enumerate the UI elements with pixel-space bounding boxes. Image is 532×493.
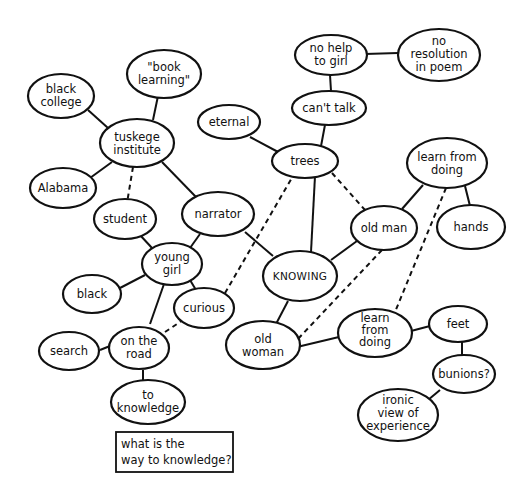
- svg-text:student: student: [103, 212, 147, 226]
- node-tuskege-institute: tuskege institute: [100, 119, 174, 167]
- node-no-help-to-girl: no help to girl: [295, 35, 367, 75]
- svg-text:learning": learning": [138, 73, 190, 87]
- svg-text:learn from: learn from: [417, 150, 477, 164]
- svg-text:curious: curious: [183, 301, 225, 315]
- svg-text:black: black: [46, 82, 77, 96]
- node-search: search: [39, 332, 99, 370]
- edge-young-girl-black: [120, 275, 145, 288]
- svg-text:road: road: [126, 347, 152, 361]
- svg-text:institute: institute: [113, 143, 161, 157]
- node-hands: hands: [437, 205, 505, 249]
- edge-trees-cant-talk: [321, 125, 325, 146]
- node-feet: feet: [429, 306, 487, 342]
- svg-text:woman: woman: [242, 345, 284, 359]
- svg-text:Alabama: Alabama: [38, 181, 89, 195]
- edge-narrator-young-girl: [190, 234, 200, 248]
- concept-map: "book learning" black college tuskege in…: [0, 0, 532, 493]
- svg-text:college: college: [40, 95, 81, 109]
- svg-text:no help: no help: [310, 41, 353, 55]
- svg-text:resolution: resolution: [410, 47, 467, 61]
- node-book-learning: "book learning": [127, 50, 201, 98]
- svg-text:what is the: what is the: [121, 437, 185, 451]
- edge-tuskege-book-learning: [153, 96, 158, 120]
- svg-text:hands: hands: [454, 220, 489, 234]
- svg-text:view of: view of: [377, 406, 419, 420]
- node-old-woman: old woman: [226, 321, 300, 369]
- question-box: what is the way to knowledge?: [116, 432, 233, 472]
- svg-text:girl: girl: [163, 263, 181, 277]
- node-student: student: [94, 199, 156, 239]
- edge-old-woman-learn-bottom: [297, 337, 339, 347]
- edge-on-the-road-curious: [165, 320, 183, 332]
- svg-text:in poem: in poem: [416, 60, 463, 74]
- node-learn-from-doing-bottom: learn from doing: [338, 309, 412, 357]
- edge-trees-old-man: [332, 173, 365, 210]
- nodes: "book learning" black college tuskege in…: [28, 29, 505, 441]
- node-knowing: KNOWING: [263, 251, 337, 301]
- svg-text:doing: doing: [431, 163, 463, 177]
- svg-text:experience: experience: [366, 419, 430, 433]
- node-bunions: bunions?: [433, 355, 495, 393]
- svg-text:on the: on the: [121, 334, 158, 348]
- edge-tuskege-student: [127, 167, 133, 203]
- node-alabama: Alabama: [30, 168, 96, 208]
- svg-text:old: old: [254, 332, 272, 346]
- svg-text:doing: doing: [359, 335, 391, 349]
- node-eternal: eternal: [198, 105, 260, 139]
- edge-learn-top-hands: [465, 186, 470, 206]
- edge-tuskege-alabama: [90, 162, 112, 178]
- node-black-college: black college: [28, 74, 94, 118]
- svg-text:bunions?: bunions?: [438, 367, 490, 381]
- svg-text:to: to: [142, 388, 154, 402]
- edge-learn-top-learn-bottom: [395, 188, 446, 312]
- svg-text:old man: old man: [361, 221, 408, 235]
- svg-text:eternal: eternal: [209, 115, 250, 129]
- svg-text:to girl: to girl: [314, 54, 348, 68]
- svg-text:ironic: ironic: [382, 393, 414, 407]
- edge-trees-knowing: [311, 176, 315, 252]
- edge-knowing-old-woman: [276, 301, 288, 324]
- svg-text:knowledge: knowledge: [117, 401, 179, 415]
- edge-cant-talk-no-help: [330, 75, 331, 91]
- node-black: black: [63, 275, 121, 313]
- svg-text:KNOWING: KNOWING: [273, 270, 328, 282]
- node-curious: curious: [174, 288, 234, 328]
- node-trees: trees: [272, 144, 338, 178]
- edge-tuskege-black-college: [88, 110, 108, 128]
- edge-eternal-trees: [250, 137, 280, 153]
- svg-text:young: young: [154, 250, 190, 264]
- svg-text:no: no: [432, 34, 446, 48]
- node-on-the-road: on the road: [109, 327, 169, 369]
- svg-text:trees: trees: [290, 154, 319, 168]
- svg-text:feet: feet: [447, 317, 470, 331]
- node-learn-from-doing-top: learn from doing: [407, 138, 487, 188]
- node-narrator: narrator: [182, 192, 254, 236]
- node-cant-talk: can't talk: [292, 91, 366, 125]
- svg-text:way to knowledge?: way to knowledge?: [121, 453, 232, 467]
- svg-text:can't talk: can't talk: [302, 101, 356, 115]
- node-old-man: old man: [351, 206, 417, 250]
- svg-text:tuskege: tuskege: [114, 130, 160, 144]
- edge-learn-bottom-feet: [411, 326, 430, 331]
- edge-tuskege-narrator: [162, 162, 196, 197]
- node-no-resolution: no resolution in poem: [398, 29, 480, 81]
- svg-text:search: search: [50, 344, 88, 358]
- edge-young-girl-on-the-road: [150, 284, 164, 324]
- svg-text:"book: "book: [147, 60, 181, 74]
- node-to-knowledge: to knowledge: [111, 380, 185, 424]
- edge-knowing-old-man: [331, 241, 357, 260]
- svg-text:narrator: narrator: [195, 207, 242, 221]
- svg-text:black: black: [77, 287, 108, 301]
- edge-old-man-learn-top: [402, 185, 423, 209]
- node-young-girl: young girl: [142, 243, 202, 285]
- node-ironic-view: ironic view of experience: [358, 389, 438, 441]
- edge-no-help-no-resolution: [365, 53, 398, 54]
